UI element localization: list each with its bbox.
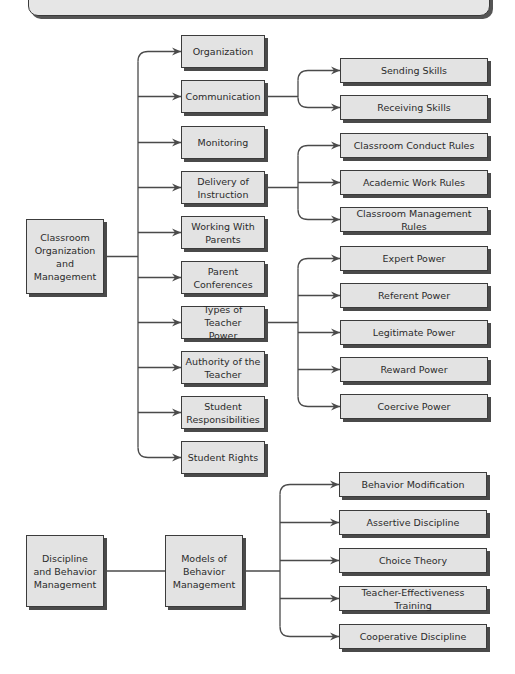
node-organization: Organization — [181, 35, 265, 68]
node-reward: Reward Power — [340, 357, 488, 382]
node-expert: Expert Power — [340, 246, 488, 271]
node-conduct-rules: Classroom Conduct Rules — [340, 133, 488, 158]
node-working-parents: Working With Parents — [181, 216, 265, 249]
node-student-responsibilities: Student Responsibilities — [181, 396, 265, 429]
node-behavior-mod: Behavior Modification — [339, 472, 487, 497]
node-delivery: Delivery of Instruction — [181, 171, 265, 204]
node-academic-rules: Academic Work Rules — [340, 170, 488, 195]
node-coercive: Coercive Power — [340, 394, 488, 419]
node-choice: Choice Theory — [339, 548, 487, 573]
node-assertive: Assertive Discipline — [339, 510, 487, 535]
node-receiving: Receiving Skills — [340, 95, 488, 120]
node-communication: Communication — [181, 80, 265, 113]
node-teacher-effectiveness: Teacher-Effectiveness Training — [339, 586, 487, 611]
node-legitimate: Legitimate Power — [340, 320, 488, 345]
node-models: Models of Behavior Management — [165, 535, 243, 607]
node-sending: Sending Skills — [340, 58, 488, 83]
diagram-canvas: Classroom Organization and ManagementDis… — [0, 0, 515, 674]
node-student-rights: Student Rights — [181, 441, 265, 474]
node-teacher-power: Types of Teacher Power — [181, 306, 265, 339]
node-discipline: Discipline and Behavior Management — [26, 535, 104, 607]
node-monitoring: Monitoring — [181, 126, 265, 159]
node-referent: Referent Power — [340, 283, 488, 308]
node-authority: Authority of the Teacher — [181, 351, 265, 384]
node-classroom: Classroom Organization and Management — [26, 219, 104, 294]
node-parent-conferences: Parent Conferences — [181, 261, 265, 294]
node-management-rules: Classroom Management Rules — [340, 207, 488, 232]
node-cooperative: Cooperative Discipline — [339, 624, 487, 649]
